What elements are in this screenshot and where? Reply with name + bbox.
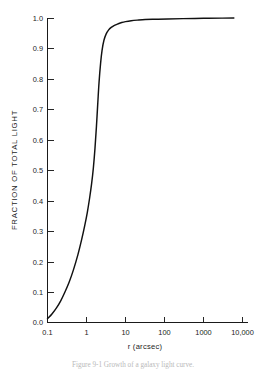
- y-tick-label: 0.4: [33, 197, 43, 206]
- x-axis-title: r (arcsec): [128, 342, 163, 351]
- x-tick-label: 100: [158, 328, 170, 337]
- y-tick-label: 0.3: [33, 227, 43, 236]
- x-tick-labels: 0.1 1 10 100 1000 10,000: [42, 328, 253, 337]
- x-tick-label: 0.1: [42, 328, 52, 337]
- y-axis-ticks: [48, 18, 54, 323]
- y-tick-label: 0.1: [33, 288, 43, 297]
- y-tick-label: 0.8: [33, 75, 43, 84]
- y-tick-label: 0.2: [33, 258, 43, 267]
- y-tick-label: 0.0: [33, 318, 43, 327]
- growth-curve: [48, 18, 234, 319]
- figure-caption: Figure 9-1 Growth of a galaxy light curv…: [72, 361, 194, 369]
- x-tick-label: 1: [84, 328, 88, 337]
- y-tick-label: 0.9: [33, 44, 43, 53]
- x-tick-label: 10,000: [231, 328, 254, 337]
- y-tick-label: 0.5: [33, 166, 43, 175]
- x-tick-label: 1000: [195, 328, 211, 337]
- y-tick-label: 1.0: [33, 14, 43, 23]
- x-tick-label: 10: [121, 328, 129, 337]
- y-tick-label: 0.7: [33, 105, 43, 114]
- y-tick-label: 0.6: [33, 136, 43, 145]
- chart-canvas: 1.0 0.9 0.8 0.7 0.6 0.5 0.4 0.3 0.2 0.1 …: [0, 0, 267, 369]
- figure-container: 1.0 0.9 0.8 0.7 0.6 0.5 0.4 0.3 0.2 0.1 …: [0, 0, 267, 369]
- x-axis-ticks: [48, 317, 243, 323]
- y-axis-title: FRACTION OF TOTAL LIGHT: [10, 110, 19, 230]
- y-tick-labels: 1.0 0.9 0.8 0.7 0.6 0.5 0.4 0.3 0.2 0.1 …: [33, 14, 43, 328]
